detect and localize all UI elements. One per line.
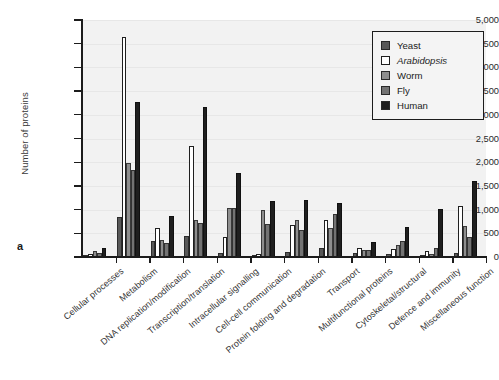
- legend-label: Human: [397, 101, 428, 111]
- x-axis-tick: [385, 257, 386, 263]
- legend-item-fly: Fly: [381, 83, 476, 98]
- legend-label: Worm: [397, 71, 422, 81]
- legend-swatch-icon: [381, 41, 390, 50]
- legend-item-worm: Worm: [381, 68, 476, 83]
- gridline: [82, 210, 486, 211]
- x-axis-tick: [149, 257, 150, 263]
- y-axis-tick: [74, 114, 82, 115]
- gridline: [82, 162, 486, 163]
- legend-label: Yeast: [397, 41, 421, 51]
- bar-human: [135, 102, 140, 257]
- y-axis-tick-label: 500: [429, 228, 499, 238]
- y-axis-tick: [74, 185, 82, 186]
- y-axis-tick: [74, 233, 82, 234]
- y-axis-tick: [74, 90, 82, 91]
- bar-human: [304, 200, 309, 257]
- y-axis-tick-label: 2,000: [429, 157, 499, 167]
- y-axis-tick-label: 1,500: [429, 181, 499, 191]
- y-axis-tick: [74, 67, 82, 68]
- bar-human: [337, 203, 342, 257]
- bar-human: [371, 242, 376, 257]
- legend-label: Arabidopsis: [397, 56, 447, 66]
- bar-human: [169, 216, 174, 257]
- bar-human: [405, 227, 410, 257]
- x-axis-tick: [250, 257, 251, 263]
- x-axis-tick: [284, 257, 285, 263]
- legend-swatch-icon: [381, 86, 390, 95]
- gridline: [82, 233, 486, 234]
- y-axis-tick-label: 5,000: [429, 15, 499, 25]
- legend-label: Fly: [397, 86, 410, 96]
- x-axis-tick: [217, 257, 218, 263]
- y-axis-tick: [74, 162, 82, 163]
- y-axis-tick: [74, 256, 82, 257]
- y-axis-tick: [74, 19, 82, 20]
- y-axis-tick-label: 0: [429, 252, 499, 262]
- gridline: [82, 186, 486, 187]
- gridline: [82, 139, 486, 140]
- legend-swatch-icon: [381, 71, 390, 80]
- x-axis-tick: [452, 257, 453, 263]
- x-axis-tick: [116, 257, 117, 263]
- chart-legend: YeastArabidopsisWormFlyHuman: [372, 31, 484, 120]
- bar-human: [472, 181, 477, 257]
- legend-swatch-icon: [381, 56, 390, 65]
- gridline: [82, 20, 486, 21]
- y-axis-tick-label: 1,000: [429, 205, 499, 215]
- x-axis-tick: [183, 257, 184, 263]
- x-axis-tick: [486, 257, 487, 263]
- bar-human: [270, 201, 275, 257]
- x-axis-tick: [419, 257, 420, 263]
- y-axis-tick: [74, 138, 82, 139]
- legend-swatch-icon: [381, 101, 390, 110]
- y-axis-tick: [74, 209, 82, 210]
- y-axis-title: Number of proteins: [19, 54, 30, 214]
- bar-human: [236, 173, 241, 257]
- x-axis-tick: [351, 257, 352, 263]
- bar-human: [203, 107, 208, 257]
- x-axis-tick: [318, 257, 319, 263]
- legend-item-yeast: Yeast: [381, 38, 476, 53]
- x-axis-category-label: Cellular processes: [61, 266, 125, 322]
- figure-panel: a Number of proteins 05001,0001,5002,000…: [0, 0, 499, 380]
- y-axis-tick: [74, 43, 82, 44]
- panel-letter: a: [17, 241, 23, 252]
- legend-item-arabidopsis: Arabidopsis: [381, 53, 476, 68]
- legend-item-human: Human: [381, 98, 476, 113]
- y-axis-tick-label: 2,500: [429, 134, 499, 144]
